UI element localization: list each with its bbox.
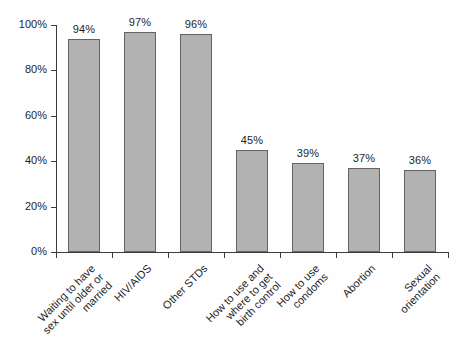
category-label: How to use and where to get birth contro… <box>203 262 283 342</box>
y-tick-label: 40% <box>0 154 47 167</box>
bar <box>292 163 324 252</box>
bar-value-label: 94% <box>60 23 108 36</box>
bar <box>348 168 380 252</box>
y-tick <box>51 161 56 162</box>
y-tick-label: 80% <box>0 63 47 76</box>
x-tick <box>112 253 113 258</box>
category-label: Abortion <box>340 262 377 299</box>
x-tick <box>280 253 281 258</box>
x-tick <box>168 253 169 258</box>
category-label: How to use condoms <box>274 262 330 318</box>
x-axis <box>56 252 449 253</box>
bar-value-label: 45% <box>228 134 276 147</box>
bar-value-label: 39% <box>284 147 332 160</box>
bar-value-label: 96% <box>172 18 220 31</box>
plot-area: 0%20%40%60%80%100%94%Waiting to have sex… <box>0 0 468 348</box>
y-tick <box>51 207 56 208</box>
y-tick-label: 0% <box>0 245 47 258</box>
bar <box>236 150 268 252</box>
y-tick <box>51 116 56 117</box>
x-tick <box>392 253 393 258</box>
y-tick <box>51 25 56 26</box>
bar <box>68 39 100 252</box>
bar <box>124 32 156 252</box>
category-label: Waiting to have sex until older or marri… <box>32 262 115 345</box>
category-label: Other STDs <box>160 262 210 312</box>
x-tick <box>56 253 57 258</box>
x-tick <box>336 253 337 258</box>
bar-value-label: 36% <box>396 154 444 167</box>
bar-value-label: 37% <box>340 152 388 165</box>
y-axis <box>56 25 57 253</box>
bar <box>180 34 212 252</box>
y-tick-label: 20% <box>0 200 47 213</box>
bar <box>404 170 436 252</box>
y-tick-label: 100% <box>0 18 47 31</box>
bar-value-label: 97% <box>116 16 164 29</box>
bar-chart: 0%20%40%60%80%100%94%Waiting to have sex… <box>0 0 468 348</box>
x-tick <box>448 253 449 258</box>
y-tick-label: 60% <box>0 109 47 122</box>
y-tick <box>51 70 56 71</box>
category-label: HIV/AIDS <box>112 262 154 304</box>
category-label: Sexual orientation <box>389 262 442 315</box>
x-tick <box>224 253 225 258</box>
